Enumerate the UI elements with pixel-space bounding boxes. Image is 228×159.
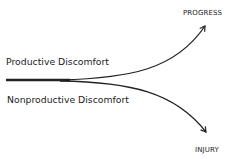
productive-discomfort-label: Productive Discomfort (6, 56, 109, 67)
nonproductive-discomfort-label: Nonproductive Discomfort (7, 94, 129, 105)
injury-label: INJURY (195, 146, 219, 154)
progress-label: PROGRESS (183, 9, 222, 17)
progress-arrow (60, 26, 205, 80)
injury-arrow (60, 81, 206, 132)
branching-arrows (0, 0, 228, 159)
